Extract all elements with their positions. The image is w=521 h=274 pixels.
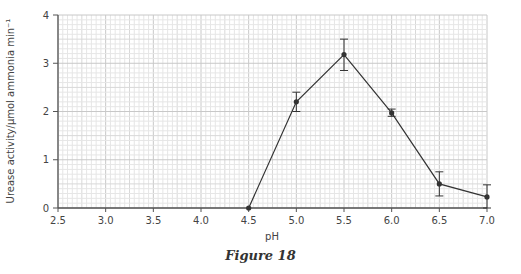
chart-grid <box>58 15 487 208</box>
data-point <box>341 52 346 57</box>
data-point <box>484 194 489 199</box>
x-axis-ticks: 2.53.03.54.04.55.05.56.06.57.0 <box>50 208 495 226</box>
x-tick-label: 3.0 <box>98 215 114 226</box>
x-tick-label: 4.0 <box>193 215 209 226</box>
data-point <box>294 99 299 104</box>
y-tick-label: 3 <box>43 58 49 69</box>
x-tick-label: 5.5 <box>336 215 352 226</box>
y-tick-label: 0 <box>43 203 49 214</box>
x-tick-label: 3.5 <box>145 215 161 226</box>
data-point <box>437 181 442 186</box>
urease-ph-chart: 2.53.03.54.04.55.05.56.06.57.0 01234 pH … <box>0 0 521 245</box>
figure-caption: Figure 18 <box>0 248 521 263</box>
y-tick-label: 1 <box>43 154 49 165</box>
x-tick-label: 6.5 <box>431 215 447 226</box>
data-point <box>389 110 394 115</box>
y-tick-label: 4 <box>43 10 49 21</box>
data-point <box>246 205 251 210</box>
y-axis-ticks: 01234 <box>43 10 58 214</box>
y-axis-label: Urease activity/μmol ammonia min⁻¹ <box>5 19 16 204</box>
x-tick-label: 4.5 <box>241 215 257 226</box>
x-tick-label: 5.0 <box>288 215 304 226</box>
x-tick-label: 7.0 <box>479 215 495 226</box>
x-axis-label: pH <box>265 231 279 242</box>
x-tick-label: 2.5 <box>50 215 66 226</box>
y-tick-label: 2 <box>43 106 49 117</box>
data-series <box>246 39 491 210</box>
x-tick-label: 6.0 <box>384 215 400 226</box>
